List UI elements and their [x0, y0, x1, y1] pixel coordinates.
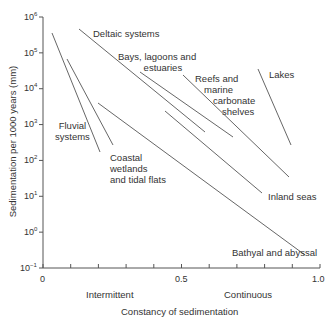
label-line: Bays, lagoons and	[118, 51, 196, 62]
label-line: carbonate	[195, 95, 255, 106]
label-bays: Bays, lagoons and estuaries	[118, 51, 196, 73]
label-line: estuaries	[118, 62, 196, 73]
y-tick-label: 101	[24, 190, 37, 201]
y-tick-label: 100	[24, 226, 37, 237]
line-lakes	[258, 69, 291, 145]
label-line: and tidal flats	[110, 174, 166, 185]
label-line: systems	[55, 131, 90, 142]
label-line: Coastal	[110, 152, 166, 163]
label-line: Fluvial	[55, 120, 90, 131]
x-axis-title: Constancy of sedimentation	[121, 306, 238, 317]
label-deltaic: Deltaic systems	[93, 28, 160, 39]
y-tick-label: 105	[24, 47, 37, 58]
y-tick-label: 106	[24, 11, 37, 22]
y-axis-title: Sedimentation per 1000 years (mm)	[7, 57, 18, 227]
label-line: Reefs and	[195, 73, 255, 84]
x-tick-label-1.0: 1.0	[312, 274, 325, 284]
label-inland-seas: Inland seas	[268, 191, 317, 202]
y-tick-label: 102	[24, 154, 37, 165]
label-fluvial: Fluvial systems	[55, 120, 90, 142]
label-coastal: Coastal wetlands and tidal flats	[110, 152, 166, 185]
label-bathyal: Bathyal and abyssal	[232, 247, 317, 258]
x-annotation-intermittent: Intermittent	[86, 289, 134, 300]
x-tick-label-0: 0	[40, 274, 45, 284]
label-reefs: Reefs and marine carbonate shelves	[195, 73, 255, 117]
label-line: wetlands	[110, 163, 166, 174]
label-lakes: Lakes	[269, 69, 294, 80]
label-line: marine	[195, 84, 255, 95]
label-line: shelves	[195, 106, 255, 117]
x-tick-label-0.5: 0.5	[175, 274, 188, 284]
y-tick-label: 104	[24, 82, 37, 93]
y-ticks	[39, 17, 43, 268]
y-tick-label: 103	[24, 118, 37, 129]
y-tick-label: 10−1	[20, 262, 37, 273]
x-annotation-continuous: Continuous	[224, 289, 272, 300]
x-ticks	[43, 264, 320, 268]
chart-canvas	[0, 0, 334, 323]
